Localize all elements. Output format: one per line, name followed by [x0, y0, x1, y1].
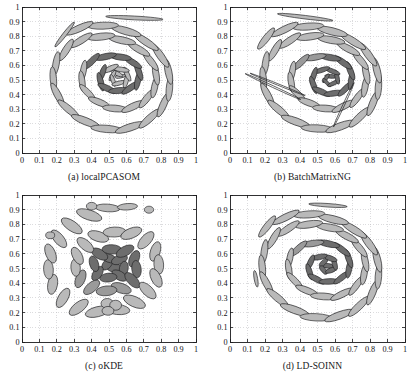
- svg-text:1: 1: [403, 156, 407, 165]
- svg-text:0.3: 0.3: [217, 105, 227, 114]
- svg-text:0.5: 0.5: [9, 76, 19, 85]
- panel-a: 00.10.20.30.40.50.60.70.80.9100.10.20.30…: [0, 0, 208, 188]
- svg-text:0.3: 0.3: [9, 294, 19, 303]
- svg-text:0.6: 0.6: [121, 156, 131, 165]
- svg-text:0.8: 0.8: [365, 156, 375, 165]
- svg-text:1: 1: [223, 191, 227, 200]
- svg-text:0.6: 0.6: [330, 156, 340, 165]
- svg-text:0.2: 0.2: [52, 156, 62, 165]
- svg-text:0.3: 0.3: [69, 156, 79, 165]
- svg-text:0: 0: [228, 156, 232, 165]
- svg-text:0.5: 0.5: [217, 76, 227, 85]
- panel-a-caption: (a) localPCASOM: [0, 172, 208, 182]
- svg-text:0.8: 0.8: [156, 156, 166, 165]
- svg-text:1: 1: [223, 3, 227, 12]
- svg-text:0.7: 0.7: [9, 47, 19, 56]
- svg-text:0.2: 0.2: [9, 309, 19, 318]
- panel-d: 00.10.20.30.40.50.60.70.80.9100.10.20.30…: [208, 188, 417, 377]
- svg-text:0.9: 0.9: [9, 18, 19, 27]
- svg-text:0.4: 0.4: [86, 345, 96, 354]
- svg-text:0.3: 0.3: [217, 294, 227, 303]
- svg-text:0.4: 0.4: [217, 279, 227, 288]
- svg-text:0.7: 0.7: [139, 156, 149, 165]
- svg-text:0.1: 0.1: [34, 345, 44, 354]
- svg-text:0.1: 0.1: [34, 156, 44, 165]
- svg-text:0.5: 0.5: [104, 156, 114, 165]
- svg-text:0.3: 0.3: [277, 345, 287, 354]
- panel-b-caption: (b) BatchMatrixNG: [208, 172, 417, 182]
- svg-text:0.9: 0.9: [382, 345, 392, 354]
- svg-text:0.2: 0.2: [260, 345, 270, 354]
- svg-text:0.6: 0.6: [217, 250, 227, 259]
- svg-text:0.1: 0.1: [9, 134, 19, 143]
- svg-text:0: 0: [20, 345, 24, 354]
- panel-a-plot: 00.10.20.30.40.50.60.70.80.9100.10.20.30…: [0, 0, 208, 188]
- svg-text:0.4: 0.4: [217, 91, 227, 100]
- svg-text:1: 1: [194, 345, 198, 354]
- svg-text:0.1: 0.1: [242, 345, 252, 354]
- svg-text:0.9: 0.9: [173, 156, 183, 165]
- truncated-figure-caption: [0, 368, 417, 377]
- svg-text:0.2: 0.2: [52, 345, 62, 354]
- svg-text:0.3: 0.3: [69, 345, 79, 354]
- panel-b: 00.10.20.30.40.50.60.70.80.9100.10.20.30…: [208, 0, 417, 188]
- svg-text:0: 0: [20, 156, 24, 165]
- svg-text:0.9: 0.9: [173, 345, 183, 354]
- svg-text:0.6: 0.6: [121, 345, 131, 354]
- svg-text:0.7: 0.7: [347, 156, 357, 165]
- svg-text:0.7: 0.7: [347, 345, 357, 354]
- figure-panel-grid: 00.10.20.30.40.50.60.70.80.9100.10.20.30…: [0, 0, 417, 377]
- svg-text:0.5: 0.5: [312, 345, 322, 354]
- svg-text:0.5: 0.5: [312, 156, 322, 165]
- svg-text:0.4: 0.4: [295, 156, 305, 165]
- svg-text:0.2: 0.2: [217, 309, 227, 318]
- svg-text:0.6: 0.6: [9, 250, 19, 259]
- svg-text:0.2: 0.2: [9, 120, 19, 129]
- svg-text:0.4: 0.4: [86, 156, 96, 165]
- svg-text:0.5: 0.5: [104, 345, 114, 354]
- svg-text:0.5: 0.5: [9, 265, 19, 274]
- svg-text:0.1: 0.1: [9, 323, 19, 332]
- panel-b-plot: 00.10.20.30.40.50.60.70.80.9100.10.20.30…: [208, 0, 417, 188]
- svg-text:0.1: 0.1: [242, 156, 252, 165]
- svg-text:0.8: 0.8: [365, 345, 375, 354]
- svg-text:0: 0: [15, 149, 19, 158]
- svg-text:0.6: 0.6: [9, 61, 19, 70]
- svg-text:0.2: 0.2: [260, 156, 270, 165]
- svg-text:0.6: 0.6: [217, 61, 227, 70]
- svg-text:0.8: 0.8: [9, 32, 19, 41]
- svg-text:0.6: 0.6: [330, 345, 340, 354]
- svg-text:0.9: 0.9: [9, 206, 19, 215]
- svg-text:1: 1: [403, 345, 407, 354]
- svg-text:1: 1: [194, 156, 198, 165]
- svg-text:0: 0: [223, 149, 227, 158]
- svg-text:0.9: 0.9: [382, 156, 392, 165]
- svg-text:0.7: 0.7: [217, 47, 227, 56]
- svg-text:0.7: 0.7: [139, 345, 149, 354]
- svg-text:0.1: 0.1: [217, 134, 227, 143]
- panel-d-plot: 00.10.20.30.40.50.60.70.80.9100.10.20.30…: [208, 188, 417, 377]
- panel-c: 00.10.20.30.40.50.60.70.80.9100.10.20.30…: [0, 188, 208, 377]
- svg-text:0.2: 0.2: [217, 120, 227, 129]
- svg-text:0.4: 0.4: [295, 345, 305, 354]
- svg-text:1: 1: [15, 3, 19, 12]
- svg-text:0.5: 0.5: [217, 265, 227, 274]
- svg-text:0.7: 0.7: [217, 235, 227, 244]
- svg-text:0: 0: [223, 338, 227, 347]
- svg-text:0.4: 0.4: [9, 279, 19, 288]
- svg-text:0: 0: [228, 345, 232, 354]
- svg-text:0.3: 0.3: [277, 156, 287, 165]
- svg-text:0.9: 0.9: [217, 206, 227, 215]
- svg-text:0.7: 0.7: [9, 235, 19, 244]
- svg-text:0.8: 0.8: [217, 220, 227, 229]
- svg-text:0.8: 0.8: [9, 220, 19, 229]
- svg-text:0.4: 0.4: [9, 91, 19, 100]
- svg-text:0.3: 0.3: [9, 105, 19, 114]
- svg-text:0.8: 0.8: [217, 32, 227, 41]
- svg-text:0: 0: [15, 338, 19, 347]
- svg-text:0.8: 0.8: [156, 345, 166, 354]
- svg-text:0.1: 0.1: [217, 323, 227, 332]
- panel-c-plot: 00.10.20.30.40.50.60.70.80.9100.10.20.30…: [0, 188, 208, 377]
- svg-text:1: 1: [15, 191, 19, 200]
- svg-text:0.9: 0.9: [217, 18, 227, 27]
